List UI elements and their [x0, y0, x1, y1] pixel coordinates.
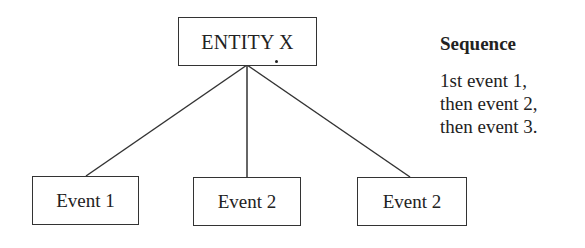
child-node-label: Event 2	[218, 192, 277, 211]
sequence-line-2: then event 2,	[440, 92, 585, 115]
connector-root-to-event-3	[247, 65, 410, 177]
child-node-event-2: Event 2	[193, 177, 301, 226]
child-node-label: Event 2	[383, 192, 442, 211]
entity-event-diagram: ENTITY X Event 1 Event 2 Event 2 Sequenc…	[0, 0, 585, 248]
sequence-line-3: then event 3.	[440, 115, 585, 138]
connector-root-to-event-1	[86, 65, 247, 176]
root-node-label: ENTITY X	[201, 32, 294, 52]
scan-speck	[275, 60, 278, 63]
child-node-event-3: Event 2	[357, 177, 467, 226]
child-node-event-1: Event 1	[32, 176, 139, 225]
root-node-entity-x: ENTITY X	[178, 17, 317, 66]
sequence-panel: Sequence 1st event 1, then event 2, then…	[440, 33, 585, 138]
child-node-label: Event 1	[56, 191, 115, 210]
sequence-line-1: 1st event 1,	[440, 69, 585, 92]
sequence-title: Sequence	[440, 33, 585, 55]
